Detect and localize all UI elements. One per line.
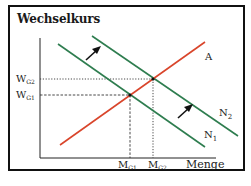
- supply-curve-a: [60, 42, 205, 145]
- y-tick-wg1: WG1: [16, 89, 35, 101]
- x-tick-mg2: MG2: [148, 159, 167, 171]
- equilibrium-point-g1: [128, 93, 131, 96]
- shift-arrow-icon: [178, 104, 193, 118]
- equilibrium-point-g2: [151, 77, 154, 80]
- label-demand-n1: N1: [204, 129, 217, 143]
- label-supply-a: A: [204, 51, 213, 62]
- label-demand-n2: N2: [219, 107, 232, 121]
- chart-plot: A N2 N1 WG2 WG1 MG1 MG2 Menge: [0, 0, 251, 186]
- shift-arrow-icon: [86, 46, 101, 60]
- x-axis-label: Menge: [186, 158, 224, 171]
- y-tick-wg2: WG2: [16, 73, 35, 85]
- x-tick-mg1: MG1: [118, 159, 137, 171]
- demand-curve-n2: [92, 36, 238, 136]
